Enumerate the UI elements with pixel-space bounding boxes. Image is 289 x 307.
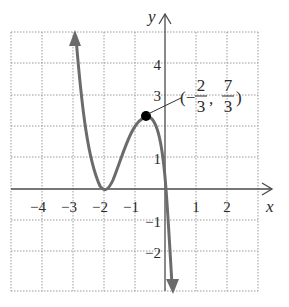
- point-label-num1: 2: [197, 76, 206, 95]
- graph: x y −4 −3 −2 −1 1 2 4 3 1 −1 −2 (− 2 3 ,…: [0, 0, 289, 307]
- x-tick-labels: −4 −3 −2 −1 1 2: [30, 199, 231, 215]
- curve-arrow-up-icon: [69, 30, 81, 46]
- y-axis-label: y: [146, 7, 156, 26]
- local-max-point: [141, 111, 151, 121]
- y-tick: 3: [154, 88, 162, 104]
- y-tick: 4: [154, 57, 162, 73]
- point-label-den2: 3: [224, 97, 233, 116]
- x-tick: −1: [123, 199, 139, 215]
- curve-arrow-down-icon: [166, 279, 179, 294]
- axes: [11, 14, 272, 291]
- point-label-comma: ,: [209, 89, 213, 108]
- x-tick: −4: [30, 199, 46, 215]
- x-axis-label: x: [265, 197, 274, 216]
- y-tick: −1: [145, 214, 161, 230]
- point-label: (− 2 3 , 7 3 ): [180, 76, 242, 116]
- grid: [11, 32, 258, 291]
- y-tick: −2: [145, 245, 161, 261]
- x-tick: −3: [61, 199, 77, 215]
- point-label-close: ): [236, 88, 242, 107]
- point-label-open: (−: [180, 88, 195, 107]
- y-tick: 1: [154, 151, 162, 167]
- x-tick: −2: [92, 199, 108, 215]
- x-tick: 1: [192, 199, 200, 215]
- point-label-num2: 7: [224, 76, 233, 95]
- y-tick-labels: 4 3 1 −1 −2: [145, 57, 161, 261]
- point-label-den1: 3: [197, 97, 206, 116]
- x-tick: 2: [223, 199, 231, 215]
